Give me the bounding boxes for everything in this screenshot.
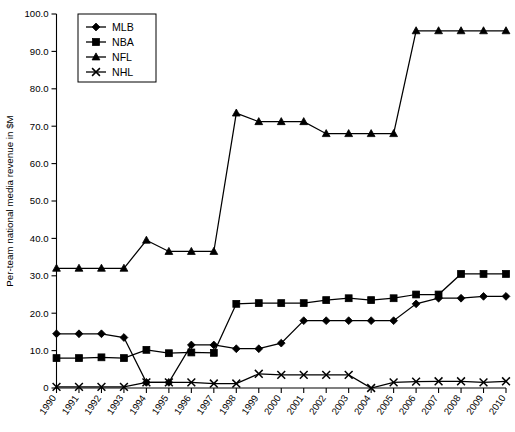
marker-square <box>210 349 217 356</box>
marker-square <box>345 295 352 302</box>
marker-diamond <box>480 292 488 300</box>
x-tick-label: 2009 <box>464 393 485 417</box>
x-tick-label: 2005 <box>374 393 395 417</box>
chart-legend: MLBNBANFLNHL <box>78 14 156 82</box>
x-tick-label: 1990 <box>37 393 58 417</box>
marker-square <box>413 291 420 298</box>
legend-label: NFL <box>112 51 132 63</box>
x-tick-label: 1994 <box>127 392 149 416</box>
y-tick-label: 30.0 <box>30 270 49 281</box>
y-tick-label: 90.0 <box>30 46 49 57</box>
marker-triangle <box>232 109 240 116</box>
marker-diamond <box>232 345 240 353</box>
y-axis-title: Per-team national media revenue in $M <box>4 115 15 287</box>
marker-diamond <box>345 317 353 325</box>
marker-square <box>278 300 285 307</box>
x-tick-label: 1993 <box>104 393 125 417</box>
y-tick-label: 50.0 <box>30 195 49 206</box>
x-tick-label: 2006 <box>396 393 417 417</box>
marker-square <box>233 300 240 307</box>
x-tick-label: 1995 <box>149 393 170 417</box>
x-tick-label: 2002 <box>307 393 328 417</box>
marker-square <box>300 300 307 307</box>
legend-label: NBA <box>112 36 135 48</box>
y-tick-label: 100.0 <box>24 8 48 19</box>
x-tick-label: 1999 <box>239 393 260 417</box>
y-tick-label: 80.0 <box>30 83 49 94</box>
y-tick-label: 70.0 <box>30 121 49 132</box>
x-tick-label: 2008 <box>441 393 462 417</box>
marker-diamond <box>322 317 330 325</box>
figure-caption <box>6 420 511 432</box>
x-tick-label: 2004 <box>352 392 374 416</box>
marker-square <box>93 39 100 46</box>
marker-square <box>53 355 60 362</box>
marker-square <box>188 349 195 356</box>
marker-diamond <box>255 345 263 353</box>
marker-diamond <box>187 341 195 349</box>
marker-square <box>390 295 397 302</box>
marker-square <box>435 291 442 298</box>
y-tick-label: 60.0 <box>30 158 49 169</box>
y-tick-label: 0 <box>43 382 48 393</box>
marker-triangle <box>143 236 151 243</box>
line-chart: 010.020.030.040.050.060.070.080.090.0100… <box>0 0 515 432</box>
marker-diamond <box>98 330 106 338</box>
y-axis-ticks: 010.020.030.040.050.060.070.080.090.0100… <box>24 8 56 393</box>
marker-square <box>120 355 127 362</box>
marker-square <box>323 297 330 304</box>
marker-diamond <box>367 317 375 325</box>
marker-diamond <box>457 294 465 302</box>
y-tick-label: 20.0 <box>30 308 49 319</box>
figure-container: 010.020.030.040.050.060.070.080.090.0100… <box>0 0 515 432</box>
x-tick-label: 1997 <box>194 393 215 417</box>
x-tick-label: 2010 <box>486 393 507 417</box>
marker-square <box>143 346 150 353</box>
x-tick-label: 2007 <box>419 393 440 417</box>
series-nba <box>53 270 509 361</box>
marker-square <box>458 270 465 277</box>
marker-square <box>368 297 375 304</box>
y-tick-label: 10.0 <box>30 345 49 356</box>
legend-label: NHL <box>112 66 133 78</box>
y-tick-label: 40.0 <box>30 233 49 244</box>
marker-diamond <box>53 330 61 338</box>
marker-square <box>255 300 262 307</box>
x-tick-label: 1991 <box>59 393 80 417</box>
marker-square <box>76 355 83 362</box>
x-tick-label: 1996 <box>172 393 193 417</box>
marker-diamond <box>75 330 83 338</box>
marker-square <box>98 354 105 361</box>
x-tick-label: 1992 <box>82 393 103 417</box>
marker-diamond <box>120 334 128 342</box>
marker-square <box>480 270 487 277</box>
x-tick-label: 2001 <box>284 393 305 417</box>
x-tick-label: 1998 <box>217 393 238 417</box>
x-tick-label: 2000 <box>262 393 283 417</box>
x-tick-label: 2003 <box>329 393 350 417</box>
marker-square <box>165 350 172 357</box>
marker-square <box>503 270 510 277</box>
legend-label: MLB <box>112 21 134 33</box>
x-axis-ticks: 1990199119921993199419951996199719981999… <box>37 388 508 417</box>
marker-diamond <box>502 292 510 300</box>
